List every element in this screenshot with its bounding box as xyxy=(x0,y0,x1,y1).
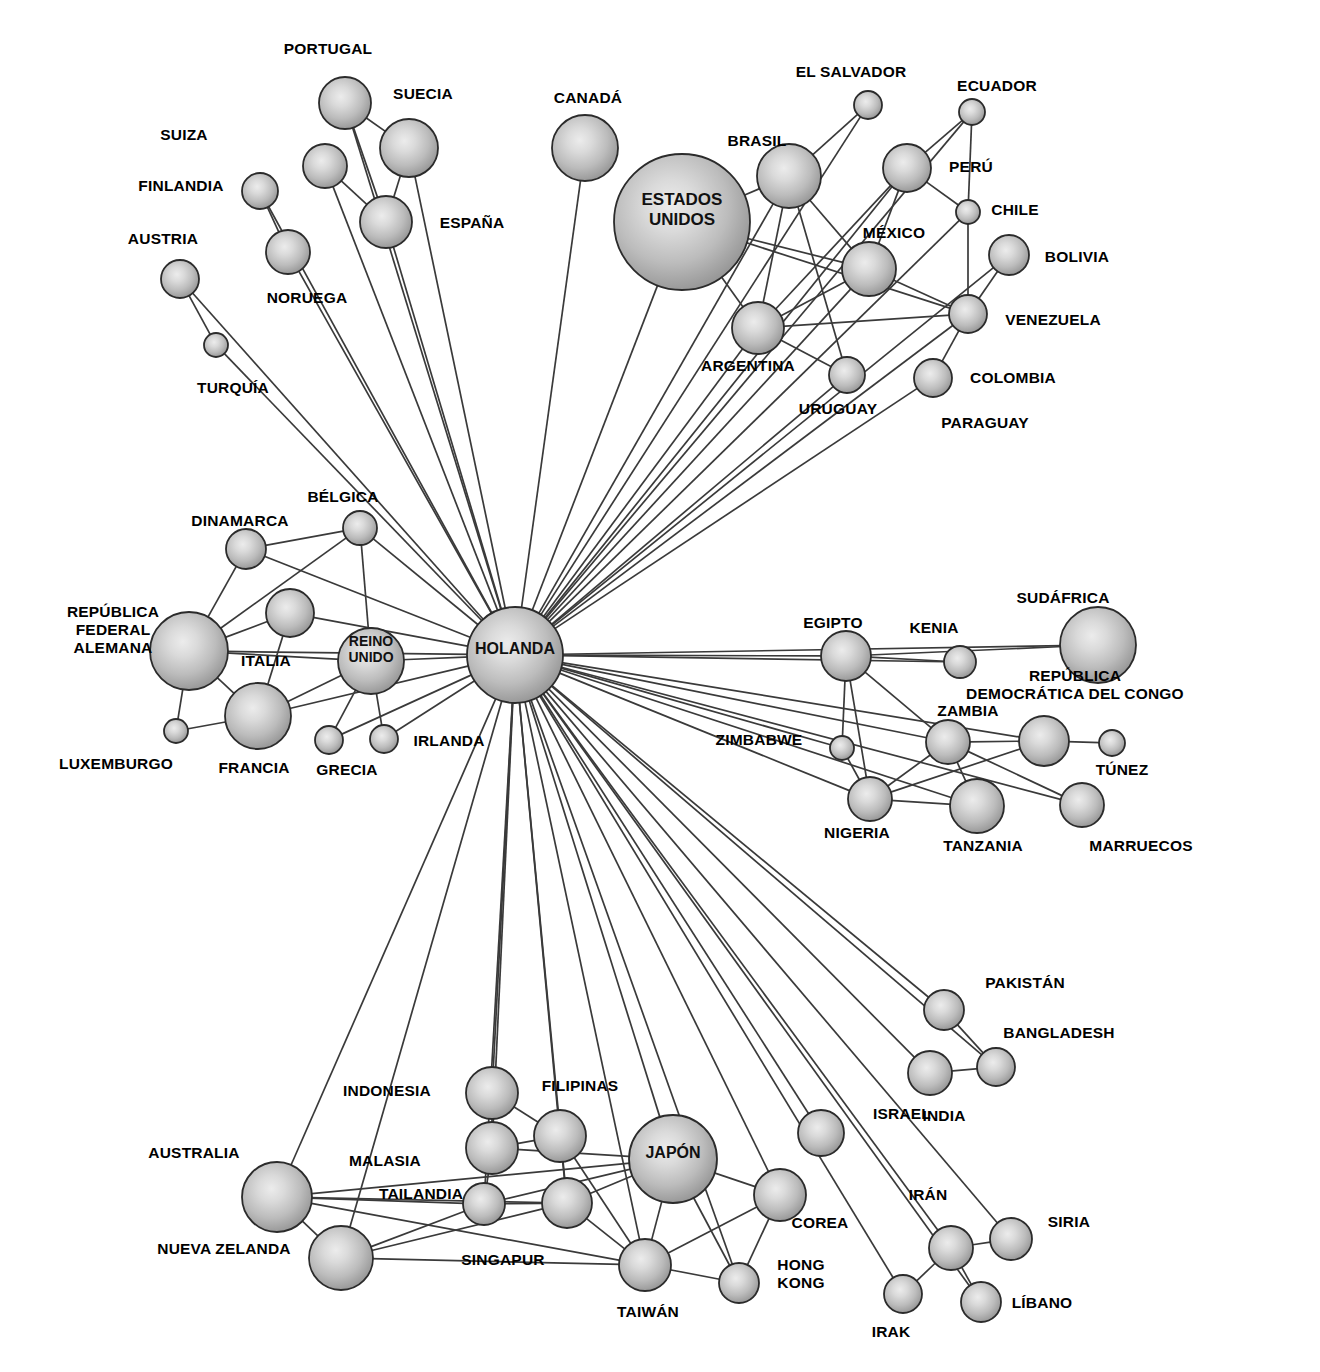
graph-link xyxy=(541,347,743,619)
graph-node-noruega[interactable] xyxy=(266,230,310,274)
graph-node-rep-blica-democr-tica-del-congo[interactable] xyxy=(1099,730,1125,756)
graph-link xyxy=(225,653,341,659)
graph-node-suiza[interactable] xyxy=(303,144,347,188)
graph-node-uruguay[interactable] xyxy=(829,357,865,393)
graph-link xyxy=(1067,742,1100,743)
graph-node-sud-frica[interactable] xyxy=(1060,607,1136,683)
graph-link xyxy=(747,1217,770,1267)
graph-node-filipinas[interactable] xyxy=(534,1110,586,1162)
graph-node-espa-a[interactable] xyxy=(360,196,412,248)
graph-node-nueva-zelanda[interactable] xyxy=(309,1226,373,1290)
graph-node-kenia[interactable] xyxy=(944,646,976,678)
graph-link xyxy=(534,695,769,1174)
graph-node-brasil[interactable] xyxy=(757,144,821,208)
graph-node-rep-blica-federal-alemana[interactable] xyxy=(150,612,228,690)
graph-node-bangladesh[interactable] xyxy=(977,1048,1015,1086)
graph-link xyxy=(300,1219,319,1237)
graph-link xyxy=(956,1024,984,1054)
graph-node-hong-kong[interactable] xyxy=(719,1263,759,1303)
graph-link xyxy=(524,698,640,1241)
graph-links-layer xyxy=(178,114,1100,1287)
graph-node-israel[interactable] xyxy=(798,1110,844,1156)
graph-node-corea[interactable] xyxy=(754,1169,806,1221)
graph-node-malasia[interactable] xyxy=(466,1122,518,1174)
graph-node-jap-n[interactable] xyxy=(629,1115,717,1203)
graph-node-tailandia[interactable] xyxy=(463,1183,505,1225)
graph-link xyxy=(924,120,963,154)
graph-link xyxy=(557,669,953,799)
graph-node-zimbabwe[interactable] xyxy=(830,736,854,760)
graph-node-portugal[interactable] xyxy=(319,77,371,129)
graph-link xyxy=(941,329,959,362)
graph-node-argentina[interactable] xyxy=(732,302,784,354)
graph-node-finlandia[interactable] xyxy=(242,173,278,209)
graph-link xyxy=(550,325,954,629)
graph-node-irak[interactable] xyxy=(884,1275,922,1313)
graph-node-holanda[interactable] xyxy=(467,607,563,703)
graph-node-indonesia[interactable] xyxy=(466,1067,518,1119)
graph-node-per-[interactable] xyxy=(883,144,931,192)
graph-link xyxy=(215,676,236,696)
graph-link xyxy=(223,621,270,639)
graph-link xyxy=(558,664,928,738)
graph-node-dinamarca[interactable] xyxy=(226,529,266,569)
graph-node-ir-n[interactable] xyxy=(929,1226,973,1270)
network-diagram-canvas: PORTUGALSUECIASUIZAFINLANDIAESPAÑAAUSTRI… xyxy=(0,0,1320,1372)
graph-node-t-nez[interactable] xyxy=(1060,783,1104,827)
graph-link xyxy=(543,121,964,621)
graph-node-el-salvador[interactable] xyxy=(854,91,882,119)
graph-link xyxy=(797,204,842,359)
graph-link xyxy=(545,287,852,622)
graph-link xyxy=(376,691,382,726)
graph-link xyxy=(666,1206,759,1254)
graph-node-turqu-a[interactable] xyxy=(204,333,228,357)
graph-link xyxy=(335,688,357,729)
graph-link xyxy=(187,721,228,729)
graph-link xyxy=(372,538,481,627)
graph-node-m-xico[interactable] xyxy=(842,242,896,296)
graph-link xyxy=(207,565,238,620)
graph-node-colombia[interactable] xyxy=(914,359,952,397)
graph-node-estados-unidos[interactable] xyxy=(614,154,750,290)
graph-node-pakist-n[interactable] xyxy=(924,990,964,1030)
graph-link xyxy=(916,1262,937,1282)
graph-node-canad-[interactable] xyxy=(552,115,618,181)
graph-node-b-lgica[interactable] xyxy=(343,511,377,545)
graph-node-l-bano[interactable] xyxy=(961,1282,1001,1322)
graph-link xyxy=(558,666,1063,800)
graph-link xyxy=(950,1069,978,1072)
graph-node-siria[interactable] xyxy=(990,1218,1032,1260)
graph-nodes-layer xyxy=(150,77,1136,1322)
graph-node-nigeria[interactable] xyxy=(848,777,892,821)
graph-link xyxy=(538,693,894,1279)
graph-node-suecia[interactable] xyxy=(380,119,438,177)
graph-node-australia[interactable] xyxy=(242,1162,312,1232)
graph-node-zambia[interactable] xyxy=(926,720,970,764)
graph-node-ecuador[interactable] xyxy=(959,99,985,125)
graph-node-venezuela[interactable] xyxy=(949,295,987,333)
graph-link xyxy=(651,1198,663,1242)
graph-node-india[interactable] xyxy=(908,1051,952,1095)
graph-link xyxy=(539,692,810,1115)
graph-link xyxy=(340,180,368,206)
graph-link xyxy=(267,206,280,234)
graph-node-tanzania[interactable] xyxy=(950,779,1004,833)
graph-node-bolivia[interactable] xyxy=(989,235,1029,275)
graph-link xyxy=(178,686,183,720)
graph-node-luxemburgo[interactable] xyxy=(164,719,188,743)
graph-node-reino-unido[interactable] xyxy=(338,628,404,694)
graph-node-taiw-n[interactable] xyxy=(619,1239,671,1291)
graph-node-austria[interactable] xyxy=(161,260,199,298)
graph-node-italia[interactable] xyxy=(266,589,314,637)
graph-link xyxy=(552,388,919,631)
graph-node-irlanda[interactable] xyxy=(370,725,398,753)
graph-node-francia[interactable] xyxy=(225,683,291,749)
graph-node-singapur[interactable] xyxy=(542,1178,592,1228)
graph-link xyxy=(711,1172,757,1187)
graph-node-congonode[interactable] xyxy=(1019,716,1069,766)
graph-node-grecia[interactable] xyxy=(315,726,343,754)
graph-link xyxy=(519,699,565,1180)
graph-link xyxy=(395,679,478,732)
graph-node-egipto[interactable] xyxy=(821,631,871,681)
graph-node-chile[interactable] xyxy=(956,200,980,224)
